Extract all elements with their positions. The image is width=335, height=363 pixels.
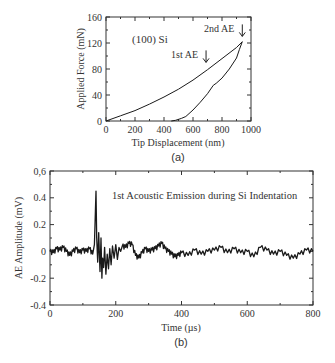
- series-line: [50, 191, 313, 278]
- y-tick-label: 40: [92, 90, 102, 101]
- x-tick-label: 600: [240, 308, 255, 319]
- x-tick-label: 200: [128, 124, 143, 135]
- caption-b: (b): [174, 336, 187, 348]
- y-tick-label: 0,6: [34, 166, 47, 177]
- y-tick-label: 80: [92, 64, 102, 75]
- curves-b: [50, 191, 313, 278]
- x-tick-label: 800: [306, 308, 321, 319]
- y-tick-label: 160: [87, 12, 102, 23]
- x-axis-label-a: Tip Displacement (nm): [132, 137, 225, 149]
- force-displacement-chart: 02004006008001000 04080120160 1st AE2nd …: [75, 12, 261, 164]
- y-tick-label: 0.2: [34, 219, 47, 230]
- x-tick-label: 200: [108, 308, 123, 319]
- x-axis-label-b: Time (µs): [161, 322, 201, 334]
- x-tick-labels-a: 02004006008001000: [104, 17, 262, 135]
- y-tick-label: -0.2: [30, 273, 46, 284]
- caption-a: (a): [171, 151, 184, 163]
- x-tick-label: 0: [104, 124, 109, 135]
- y-tick-label: 0: [97, 116, 102, 127]
- y-tick-label: 0.4: [34, 192, 47, 203]
- x-tick-label: 400: [174, 308, 189, 319]
- y-tick-label: 0: [41, 246, 46, 257]
- chart-title-b: 1st Acoustic Emission during Si Indentat…: [112, 190, 298, 201]
- sample-annotation: (100) Si: [132, 33, 168, 46]
- ae-arrow-label: 1st AE: [171, 49, 198, 60]
- x-tick-label: 400: [157, 124, 172, 135]
- y-axis-label-b: AE Amplitude (mV): [13, 197, 25, 279]
- x-tick-label: 0: [48, 308, 53, 319]
- y-tick-labels-b: -0.4-0.200.20.40,6: [30, 166, 313, 311]
- x-tick-label: 800: [215, 124, 230, 135]
- y-tick-label: -0.4: [30, 300, 46, 311]
- y-tick-label: 120: [87, 38, 102, 49]
- ae-arrow-label: 2nd AE: [204, 23, 234, 34]
- ae-arrows: 1st AE2nd AE: [171, 23, 245, 62]
- x-tick-label: 600: [186, 124, 201, 135]
- figure: 02004006008001000 04080120160 1st AE2nd …: [0, 0, 335, 363]
- ae-amplitude-chart: 0200400600800 -0.4-0.200.20.40,6 1st Aco…: [13, 166, 321, 349]
- y-axis-label-a: Applied Force (mN): [75, 28, 87, 110]
- x-tick-label: 1000: [241, 124, 261, 135]
